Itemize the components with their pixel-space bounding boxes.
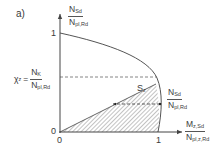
point-label-den-sub: pl,Rd [174,104,187,110]
region-label: Sz [137,84,146,94]
y-tick-one: 1 [51,29,56,38]
x-tick-zero: 0 [57,136,62,145]
panel-label: a) [16,9,25,19]
chi-label: χz = NK Npl,Rd [14,68,51,90]
point-label: NSd Npl,Rd [167,88,188,110]
point-label-num-sub: Sd [174,91,181,97]
x-tick-one: 1 [156,136,161,145]
chi-equals: = [23,74,28,84]
x-label-num-sub: z,Sd [193,123,204,129]
y-tick-zero: 0 [51,127,56,136]
y-label-den-sub: pl,Rd [75,21,88,27]
x-label-den-sub: pl,z,Rd [192,136,209,142]
y-label-num-sub: Sd [75,8,82,14]
chi-den-sub: pl,Rd [37,84,50,90]
chi-sub: z [18,76,21,82]
y-axis-label: NSd Npl,Rd [68,5,89,27]
x-axis-label: Mz,Sd Npl,z,Rd [185,120,210,142]
region-label-sub: z [143,87,146,93]
chi-num-sub: K [37,71,41,77]
nsd-point-marker [159,103,161,105]
